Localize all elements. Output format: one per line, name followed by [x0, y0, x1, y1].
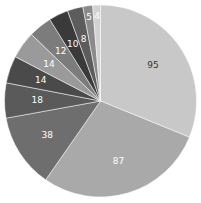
- slice-label: 12: [55, 46, 66, 56]
- slice-label: 87: [113, 156, 124, 166]
- slice-label: 14: [43, 59, 55, 69]
- slice-label: 95: [147, 60, 158, 70]
- slice-label: 5: [86, 12, 92, 22]
- slice-label: 4: [94, 11, 100, 21]
- slice-label: 18: [31, 95, 43, 105]
- slice-label: 10: [67, 39, 79, 49]
- slice-label: 38: [41, 130, 53, 140]
- slice-label: 14: [35, 75, 47, 85]
- pie-chart: 9587381814141210854: [0, 0, 201, 203]
- slice-label: 8: [81, 34, 87, 44]
